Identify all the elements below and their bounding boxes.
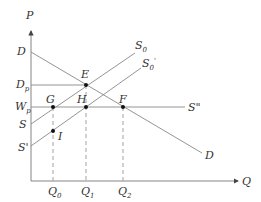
e-label: E xyxy=(80,68,89,81)
s-double-prime-label: S" xyxy=(188,101,201,114)
s-intercept-label: S xyxy=(19,118,27,131)
point-e xyxy=(84,83,88,87)
f-label: F xyxy=(118,93,127,106)
s0-label: S0 xyxy=(135,39,148,54)
g-label: G xyxy=(46,93,55,106)
p-axis-label: P xyxy=(25,9,34,22)
demand-curve xyxy=(31,52,202,153)
d-intercept-label: D xyxy=(16,45,26,58)
i-label: I xyxy=(57,130,63,143)
point-i xyxy=(51,129,55,133)
supply-demand-diagram: P Q D Dp Wp S S' S0 S0' S" D E G H F I Q… xyxy=(0,0,261,202)
q0-label: Q0 xyxy=(48,185,62,200)
dp-label: Dp xyxy=(15,78,30,93)
q2-label: Q2 xyxy=(118,185,132,200)
h-label: H xyxy=(76,93,87,106)
s0-prime-label: S0' xyxy=(142,57,156,72)
s-prime-intercept-label: S' xyxy=(18,141,29,154)
q-axis-label: Q xyxy=(242,175,251,188)
demand-curve-label: D xyxy=(204,149,214,162)
q1-label: Q1 xyxy=(81,185,95,200)
s0-supply-curve xyxy=(31,53,135,124)
wp-label: Wp xyxy=(15,100,31,115)
